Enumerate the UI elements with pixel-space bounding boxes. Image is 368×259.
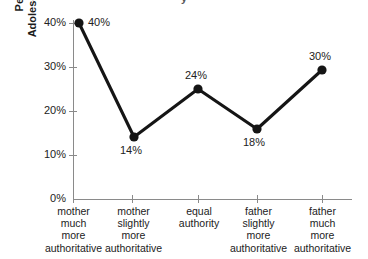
data-label-3: 18% <box>243 137 265 148</box>
x-tick-label-1-line-3: more <box>80 229 187 241</box>
data-point-1 <box>129 132 138 141</box>
data-label-1: 14% <box>120 145 142 156</box>
x-tick-label-4-line-2: much <box>269 217 368 229</box>
x-tick-label-4-line-1: father <box>269 205 368 217</box>
x-tick-label-1-line-4: authoritative <box>80 242 187 254</box>
data-point-3 <box>252 124 261 133</box>
data-label-0: 40% <box>88 17 110 28</box>
data-label-4: 30% <box>309 51 331 62</box>
chart-figure: y Percentage of Adolescents That Rebel 4… <box>0 0 368 259</box>
data-point-4 <box>317 65 326 74</box>
x-tick-label-4: father much more authoritative <box>269 205 368 254</box>
data-label-2: 24% <box>185 70 207 81</box>
data-point-0 <box>74 18 83 27</box>
x-tick-label-4-line-3: more <box>269 229 368 241</box>
data-point-2 <box>193 84 202 93</box>
x-tick-label-4-line-4: authoritative <box>269 242 368 254</box>
